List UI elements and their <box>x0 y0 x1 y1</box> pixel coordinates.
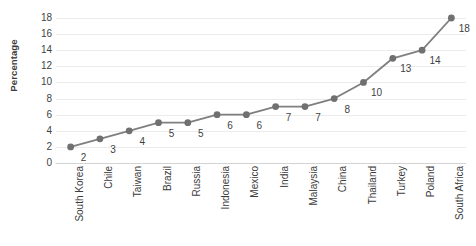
x-tick-label: Thailand <box>368 166 378 204</box>
data-point <box>272 103 279 110</box>
data-point-label: 14 <box>430 56 441 66</box>
data-point <box>331 95 338 102</box>
x-tick-label: Turkey <box>397 166 407 196</box>
data-point-label: 6 <box>257 121 263 131</box>
y-tick-label: 2 <box>30 142 52 152</box>
data-point <box>67 143 74 150</box>
plot-area: 234556677810131418 <box>56 18 466 163</box>
data-point <box>302 103 309 110</box>
data-point <box>360 79 367 86</box>
data-point-label: 2 <box>81 153 87 163</box>
data-point <box>184 119 191 126</box>
y-tick-label: 16 <box>30 29 52 39</box>
data-point-label: 10 <box>371 88 382 98</box>
y-tick-label: 4 <box>30 126 52 136</box>
data-point-label: 5 <box>198 129 204 139</box>
data-point-label: 4 <box>139 137 145 147</box>
data-point <box>448 15 455 22</box>
x-tick-label: Taiwan <box>133 166 143 197</box>
x-tick-label: South Korea <box>75 166 85 222</box>
data-point-label: 3 <box>110 145 116 155</box>
data-point <box>155 119 162 126</box>
data-point-label: 6 <box>227 121 233 131</box>
x-tick-label: Mexico <box>250 166 260 198</box>
line-chart: Percentage 181614121086420 2345566778101… <box>0 0 476 246</box>
x-tick-label: Chile <box>104 166 114 189</box>
data-point <box>243 111 250 118</box>
x-tick-label: Indonesia <box>221 166 231 209</box>
x-tick-label: Poland <box>426 166 436 197</box>
data-point-label: 7 <box>315 113 321 123</box>
data-point <box>419 47 426 54</box>
x-tick-label: South Africa <box>455 166 465 220</box>
x-axis-category-labels: South KoreaChileTaiwanBrazilRussiaIndone… <box>56 166 466 246</box>
data-point-label: 8 <box>344 105 350 115</box>
data-point-label: 13 <box>400 64 411 74</box>
data-point <box>214 111 221 118</box>
y-tick-label: 8 <box>30 94 52 104</box>
data-point-label: 7 <box>286 113 292 123</box>
y-tick-label: 12 <box>30 61 52 71</box>
data-point <box>389 55 396 62</box>
series-line <box>56 18 466 163</box>
x-tick-label: India <box>280 166 290 188</box>
y-tick-label: 0 <box>30 158 52 168</box>
y-axis-title: Percentage <box>8 31 19 101</box>
x-tick-label: Malaysia <box>309 166 319 205</box>
y-tick-label: 14 <box>30 45 52 55</box>
gridline <box>56 163 466 164</box>
data-point-label: 5 <box>169 129 175 139</box>
y-tick-label: 6 <box>30 110 52 120</box>
data-point-label: 18 <box>459 24 470 34</box>
x-tick-label: Brazil <box>163 166 173 191</box>
data-point <box>97 135 104 142</box>
y-tick-label: 10 <box>30 77 52 87</box>
x-tick-label: Russia <box>192 166 202 197</box>
data-point <box>126 127 133 134</box>
y-tick-label: 18 <box>30 13 52 23</box>
x-tick-label: China <box>338 166 348 192</box>
y-axis-tick-labels: 181614121086420 <box>26 0 52 246</box>
